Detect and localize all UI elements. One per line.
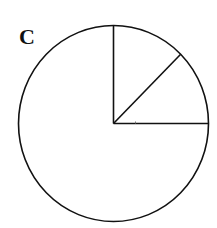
pie-chart	[0, 0, 217, 228]
pie-figure: C	[0, 0, 217, 228]
